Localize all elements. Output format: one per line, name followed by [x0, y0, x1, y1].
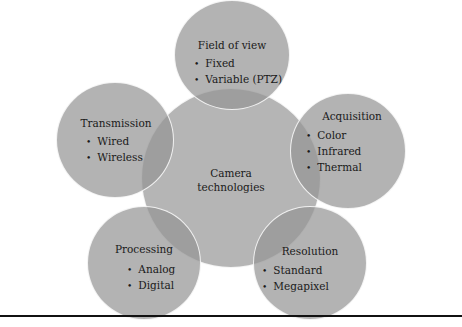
bottom-rule: [0, 315, 462, 317]
list-item: Wired: [86, 134, 143, 150]
list-item: Standard: [262, 263, 329, 279]
list-item: Fixed: [194, 56, 282, 72]
list-item: Color: [306, 128, 362, 144]
field-of-view-circle: [174, 0, 290, 110]
list-item: Analog: [127, 262, 175, 278]
processing-list: Analog Digital: [127, 262, 175, 294]
center-label-line2: technologies: [181, 180, 281, 194]
list-item: Infrared: [306, 144, 362, 160]
field-of-view-title: Field of view: [182, 38, 282, 52]
list-item: Wireless: [86, 150, 143, 166]
acquisition-title: Acquisition: [302, 109, 402, 123]
field-of-view-list: Fixed Variable (PTZ): [194, 56, 282, 88]
resolution-list: Standard Megapixel: [262, 263, 329, 295]
transmission-list: Wired Wireless: [86, 134, 143, 166]
resolution-title: Resolution: [260, 244, 360, 258]
list-item: Digital: [127, 278, 175, 294]
list-item: Thermal: [306, 160, 362, 176]
transmission-title: Transmission: [66, 116, 166, 130]
center-label: Camera technologies: [181, 166, 281, 194]
center-label-line1: Camera: [181, 166, 281, 180]
processing-title: Processing: [94, 242, 194, 256]
list-item: Megapixel: [262, 279, 329, 295]
camera-technologies-diagram: Camera technologies Field of view Fixed …: [0, 0, 462, 327]
acquisition-list: Color Infrared Thermal: [306, 128, 362, 176]
list-item: Variable (PTZ): [194, 72, 282, 88]
